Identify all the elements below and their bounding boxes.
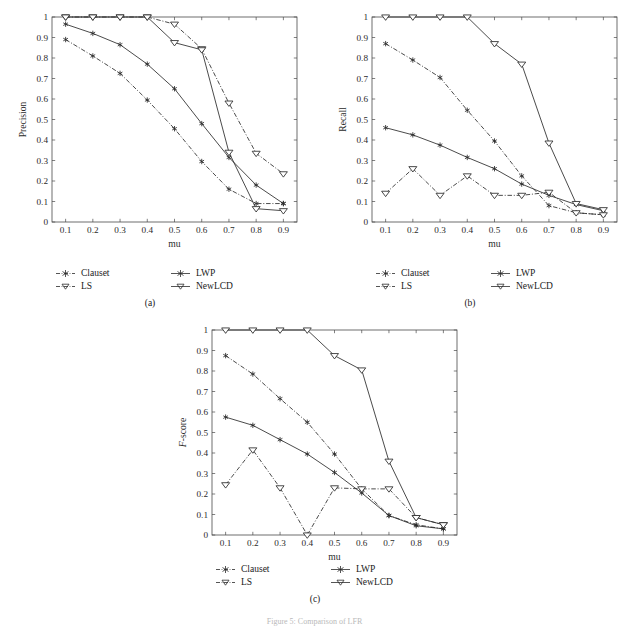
x-tick-label: 0.2	[87, 225, 99, 235]
data-point-marker	[276, 486, 284, 491]
legend-label-ls-b: LS	[401, 281, 412, 292]
clauset-marker-icon	[375, 268, 397, 279]
data-point-marker	[89, 15, 97, 20]
data-point-marker	[438, 142, 443, 147]
y-axis-label: F-score	[177, 418, 188, 448]
series-clauset	[383, 41, 605, 218]
data-point-marker	[278, 437, 283, 442]
chart-panel-fscore: 0.10.20.30.40.50.60.70.80.900.10.20.30.4…	[160, 318, 470, 563]
ls-marker-icon	[375, 281, 397, 292]
y-tick-label: 1	[43, 12, 48, 22]
y-tick-label: 0.2	[197, 489, 209, 499]
data-point-marker	[383, 41, 388, 46]
lwp-marker-icon	[490, 268, 512, 279]
y-tick-label: 0	[43, 217, 48, 227]
data-point-marker	[116, 15, 124, 20]
y-tick-label: 0.5	[197, 428, 209, 438]
data-point-marker	[225, 150, 233, 155]
data-point-marker	[63, 21, 68, 26]
legend-label-newlcd-c: NewLCD	[356, 577, 393, 588]
chart-panel-recall: 0.10.20.30.40.50.60.70.80.900.10.20.30.4…	[320, 0, 629, 262]
data-point-marker	[305, 451, 310, 456]
data-point-marker	[249, 448, 257, 453]
x-tick-label: 0.9	[598, 225, 610, 235]
data-point-marker	[223, 414, 228, 419]
data-point-marker	[250, 371, 255, 376]
subcaption-c: (c)	[285, 594, 345, 604]
data-point-marker	[518, 62, 526, 67]
lwp-marker-icon	[170, 268, 192, 279]
y-tick-label: 0	[363, 217, 368, 227]
legend-entry-ls-c: LS	[215, 576, 330, 589]
y-tick-label: 0.8	[37, 53, 49, 63]
clauset-marker-icon	[55, 268, 77, 279]
x-tick-label: 0.3	[114, 225, 126, 235]
ls-marker-icon	[55, 281, 77, 292]
y-tick-label: 0.8	[357, 53, 369, 63]
legend-entry-ls-b: LS	[375, 280, 490, 293]
legend-fscore: Clauset LWP LS	[215, 563, 393, 589]
x-tick-label: 0.7	[383, 538, 395, 548]
legend-label-lwp-a: LWP	[196, 268, 215, 279]
y-tick-label: 0.5	[357, 115, 369, 125]
legend-label-clauset-b: Clauset	[401, 268, 430, 279]
y-tick-label: 0.3	[37, 156, 49, 166]
data-point-marker	[331, 486, 339, 491]
data-point-marker	[198, 48, 206, 53]
y-tick-label: 1	[363, 12, 368, 22]
data-point-marker	[519, 181, 524, 186]
data-point-marker	[276, 328, 284, 333]
data-point-marker	[545, 141, 553, 146]
x-tick-label: 0.1	[380, 225, 392, 235]
x-tick-label: 0.4	[302, 538, 314, 548]
data-point-marker	[279, 209, 287, 214]
y-tick-label: 0.3	[197, 469, 209, 479]
data-point-marker	[358, 368, 366, 373]
legend-precision: Clauset LWP LS	[55, 267, 233, 293]
legend-entry-clauset-b: Clauset	[375, 267, 490, 280]
y-tick-label: 0.6	[197, 407, 209, 417]
x-tick-label: 0.8	[410, 538, 422, 548]
x-tick-label: 0.2	[407, 225, 419, 235]
legend-label-lwp-b: LWP	[516, 268, 535, 279]
data-point-marker	[90, 53, 95, 58]
x-tick-label: 0.8	[570, 225, 582, 235]
chart-panel-precision: 0.10.20.30.40.50.60.70.80.900.10.20.30.4…	[0, 0, 310, 262]
data-point-marker	[385, 459, 393, 464]
legend-label-newlcd-a: NewLCD	[196, 281, 233, 292]
legend-entry-newlcd-c: NewLCD	[330, 576, 393, 589]
data-point-marker	[62, 15, 70, 20]
newlcd-marker-icon	[170, 281, 192, 292]
x-tick-label: 0.7	[223, 225, 235, 235]
legend-entry-ls-a: LS	[55, 280, 170, 293]
data-point-marker	[518, 193, 526, 198]
legend-label-ls-a: LS	[81, 281, 92, 292]
series-newlcd	[222, 328, 448, 528]
lwp-marker-icon	[330, 564, 352, 575]
newlcd-marker-icon	[330, 577, 352, 588]
y-tick-label: 0.9	[197, 346, 209, 356]
y-tick-label: 0.3	[357, 156, 369, 166]
data-point-marker	[410, 57, 415, 62]
newlcd-marker-icon	[490, 281, 512, 292]
x-tick-label: 0.3	[434, 225, 446, 235]
series-lwp	[63, 21, 285, 206]
x-tick-label: 0.9	[278, 225, 290, 235]
x-tick-label: 0.6	[516, 225, 528, 235]
data-point-marker	[409, 15, 417, 20]
legend-entry-lwp-a: LWP	[170, 267, 215, 280]
x-tick-label: 0.1	[60, 225, 72, 235]
data-point-marker	[199, 159, 204, 164]
legend-entry-lwp-c: LWP	[330, 563, 375, 576]
x-tick-label: 0.5	[489, 225, 501, 235]
x-tick-label: 0.1	[220, 538, 232, 548]
figure-page: 0.10.20.30.40.50.60.70.80.900.10.20.30.4…	[0, 0, 629, 630]
x-tick-label: 0.4	[462, 225, 474, 235]
data-point-marker	[63, 37, 68, 42]
data-point-marker	[225, 101, 233, 106]
y-tick-label: 0.4	[37, 135, 49, 145]
x-tick-label: 0.8	[250, 225, 262, 235]
data-point-marker	[439, 523, 447, 528]
data-point-marker	[223, 353, 228, 358]
data-point-marker	[145, 97, 150, 102]
